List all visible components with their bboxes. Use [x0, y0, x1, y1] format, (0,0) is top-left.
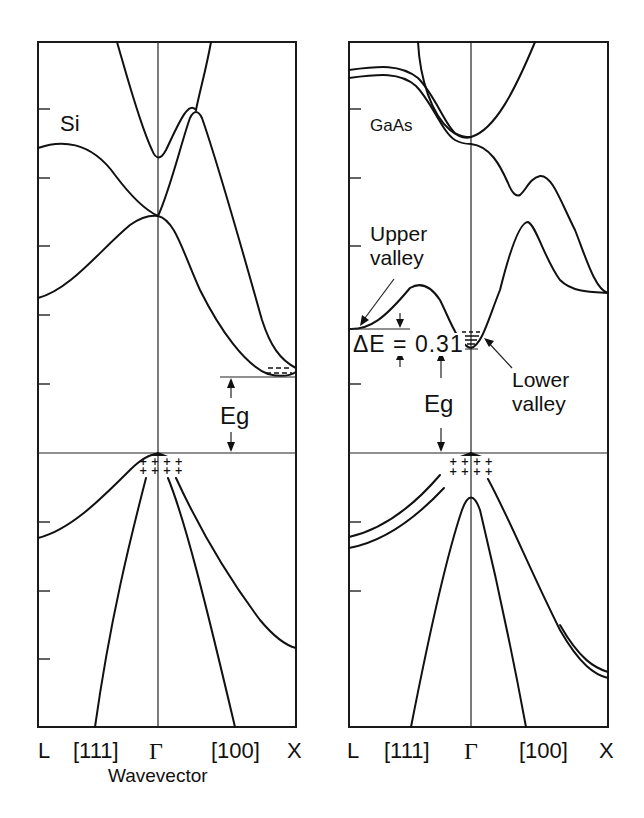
- si-holes-row2: + + + +: [139, 466, 183, 476]
- upper-valley-label: Upper valley: [370, 222, 450, 270]
- si-conduction-bands: [38, 42, 296, 376]
- x-axis-title: Wavevector: [108, 766, 208, 785]
- si-xtick-100: [100]: [211, 740, 260, 762]
- si-xtick-gamma: Γ: [149, 739, 163, 763]
- gaas-title: GaAs: [370, 117, 413, 134]
- si-panel: [38, 42, 296, 727]
- gaas-xtick-x: X: [599, 740, 614, 762]
- gaas-xtick-100: [100]: [519, 740, 568, 762]
- si-xtick-l: L: [38, 740, 50, 762]
- si-title: Si: [60, 113, 80, 135]
- lower-valley-label: Lower valley: [512, 368, 592, 416]
- si-y-ticks: [38, 109, 50, 659]
- delta-e-label: ΔE = 0.31: [352, 333, 465, 356]
- si-valence-bands: [38, 452, 296, 727]
- si-eg-label: Eg: [220, 404, 249, 428]
- gaas-xtick-111: [111]: [384, 740, 430, 762]
- gaas-xtick-l: L: [347, 740, 359, 762]
- gaas-conduction-bands: [349, 42, 608, 348]
- si-xtick-111: [111]: [73, 740, 119, 762]
- gaas-eg-label: Eg: [424, 392, 453, 416]
- si-electrons: [266, 368, 292, 373]
- si-xtick-x: X: [287, 740, 302, 762]
- gaas-holes-row2: + + + +: [449, 467, 493, 477]
- gaas-valence-bands: [349, 452, 608, 727]
- gaas-xtick-gamma: Γ: [464, 739, 478, 763]
